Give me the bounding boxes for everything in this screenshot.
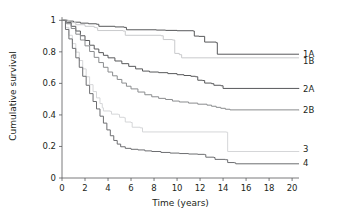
y-tick-label: 0 [51, 173, 56, 183]
survival-curve-3 [62, 20, 299, 152]
survival-curve-2b [62, 20, 299, 110]
x-tick-label: 12 [195, 183, 206, 193]
x-tick-label: 18 [264, 183, 275, 193]
series-label-4: 4 [303, 158, 308, 168]
x-tick-label: 10 [172, 183, 183, 193]
y-tick-label: 0.6 [42, 78, 56, 88]
y-tick-label: 0.2 [42, 141, 56, 151]
y-tick-label: 0.4 [42, 110, 56, 120]
series-label-1b: 1B [303, 56, 314, 66]
x-tick-label: 2 [82, 183, 87, 193]
x-tick-label: 16 [241, 183, 252, 193]
y-tick-label: 0.8 [42, 47, 56, 57]
survival-chart-figure: 00.20.40.60.8102468101214161820Time (yea… [0, 0, 338, 223]
x-tick-label: 8 [151, 183, 156, 193]
survival-curve-4 [62, 20, 299, 164]
survival-curve-1b [62, 20, 299, 58]
x-tick-label: 14 [218, 183, 229, 193]
x-tick-label: 20 [287, 183, 298, 193]
x-tick-label: 0 [59, 183, 64, 193]
y-axis-title: Cumulative survival [8, 51, 18, 141]
series-label-2a: 2A [303, 84, 314, 94]
y-tick-label: 1 [51, 15, 56, 25]
cumulative-survival-line-chart: 00.20.40.60.8102468101214161820Time (yea… [0, 0, 338, 223]
x-tick-label: 6 [128, 183, 133, 193]
series-label-3: 3 [303, 144, 308, 154]
x-axis-title: Time (years) [151, 198, 209, 208]
x-tick-label: 4 [105, 183, 110, 193]
series-label-2b: 2B [303, 105, 314, 115]
